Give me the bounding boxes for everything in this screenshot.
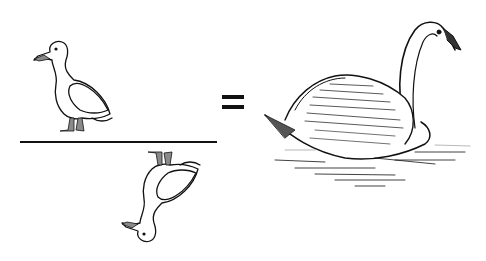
duck-upright-icon	[30, 38, 120, 133]
equals-sign-icon	[222, 95, 244, 109]
swan-illustration	[255, 10, 480, 195]
duck-upside-down-icon	[118, 150, 208, 245]
fraction-bar	[20, 141, 217, 143]
